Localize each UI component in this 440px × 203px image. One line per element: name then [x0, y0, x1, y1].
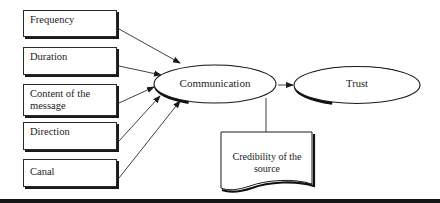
trust-label: Trust [307, 78, 407, 89]
diagram-canvas: Frequency Duration Content of the messag… [0, 0, 440, 203]
factor-label-direction: Direction [30, 126, 70, 137]
factor-box-duration: Duration [23, 47, 117, 75]
bottom-border [0, 199, 440, 203]
communication-label: Communication [160, 77, 270, 89]
factor-label-duration: Duration [30, 51, 67, 62]
factor-label-frequency: Frequency [30, 14, 74, 25]
arrow-content-to-communication [119, 87, 154, 103]
factor-box-frequency: Frequency [23, 10, 117, 37]
arrow-frequency-to-communication [119, 29, 180, 63]
credibility-label: Credibility of the source [222, 151, 312, 175]
factor-label-content: Content of the message [30, 88, 90, 111]
factor-box-content: Content of the message [23, 84, 117, 116]
factor-label-canal: Canal [30, 166, 55, 177]
arrow-duration-to-communication [119, 66, 161, 75]
factor-box-canal: Canal [23, 159, 117, 187]
arrow-canal-to-communication [119, 101, 180, 178]
factor-box-direction: Direction [23, 122, 117, 150]
